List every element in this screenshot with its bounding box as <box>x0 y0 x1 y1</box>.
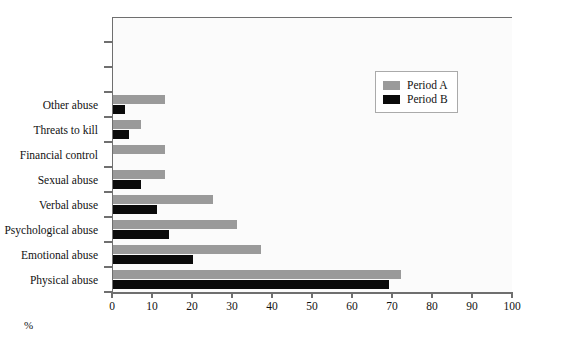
bar-period-b <box>113 280 389 289</box>
x-axis-tick <box>511 292 513 298</box>
bar-period-b <box>113 105 125 114</box>
bar-period-b <box>113 255 193 264</box>
legend-swatch-period-a <box>383 81 400 90</box>
bar-period-a <box>113 220 237 229</box>
bar-period-a <box>113 170 165 179</box>
x-axis-title-label: % <box>24 319 33 331</box>
bar-period-b <box>113 205 157 214</box>
x-axis-title: % <box>0 319 567 331</box>
x-axis-tick-label: 40 <box>252 300 292 313</box>
x-axis-tick <box>191 292 193 298</box>
x-axis-tick <box>431 292 433 298</box>
legend-item-period-b: Period B <box>383 92 448 106</box>
legend-swatch-period-b <box>383 95 400 104</box>
bar-period-a <box>113 95 165 104</box>
x-axis-tick-label: 60 <box>332 300 372 313</box>
bar-period-a <box>113 195 213 204</box>
x-axis-tick-label: 30 <box>212 300 252 313</box>
bar-period-b <box>113 230 169 239</box>
x-axis-tick <box>351 292 353 298</box>
legend-item-period-a: Period A <box>383 78 448 92</box>
x-axis-tick-label: 100 <box>492 300 532 313</box>
y-axis-tick <box>104 166 112 168</box>
y-axis-tick <box>104 141 112 143</box>
x-axis-tick <box>151 292 153 298</box>
legend-label-period-a: Period A <box>407 79 448 92</box>
chart-legend: Period A Period B <box>375 71 458 113</box>
y-axis-category-label: Psychological abuse <box>0 224 104 236</box>
y-axis-category-label: Sexual abuse <box>0 174 104 186</box>
x-axis-tick <box>311 292 313 298</box>
x-axis-tick-label: 80 <box>412 300 452 313</box>
x-axis-tick-label: 50 <box>292 300 332 313</box>
x-axis-tick <box>271 292 273 298</box>
y-axis-tick <box>104 216 112 218</box>
bar-period-b <box>113 130 129 139</box>
x-axis-tick <box>391 292 393 298</box>
y-axis-tick <box>104 91 112 93</box>
bar-period-b <box>113 180 141 189</box>
bar-period-a <box>113 245 261 254</box>
y-axis-category-label: Verbal abuse <box>0 199 104 211</box>
y-axis-category-label: Financial control <box>0 149 104 161</box>
bar-period-a <box>113 120 141 129</box>
bar-period-a <box>113 145 165 154</box>
horizontal-bar-chart: Physical abuseEmotional abusePsychologic… <box>0 0 567 346</box>
y-axis-category-label: Threats to kill <box>0 124 104 136</box>
y-axis-category-label: Other abuse <box>0 99 104 111</box>
y-axis-tick <box>104 266 112 268</box>
x-axis-tick-label: 0 <box>92 300 132 313</box>
bar-period-a <box>113 270 401 279</box>
x-axis-tick-label: 20 <box>172 300 212 313</box>
x-axis-tick-label: 10 <box>132 300 172 313</box>
x-axis-tick-label: 90 <box>452 300 492 313</box>
y-axis-tick <box>104 41 112 43</box>
x-axis-tick <box>231 292 233 298</box>
x-axis-tick-label: 70 <box>372 300 412 313</box>
y-axis-tick <box>104 191 112 193</box>
y-axis-tick <box>104 66 112 68</box>
legend-label-period-b: Period B <box>407 93 448 106</box>
y-axis-tick <box>104 241 112 243</box>
x-axis-tick <box>111 292 113 298</box>
y-axis-category-label: Physical abuse <box>0 274 104 286</box>
x-axis-tick <box>471 292 473 298</box>
y-axis-category-label: Emotional abuse <box>0 249 104 261</box>
y-axis-tick <box>104 116 112 118</box>
